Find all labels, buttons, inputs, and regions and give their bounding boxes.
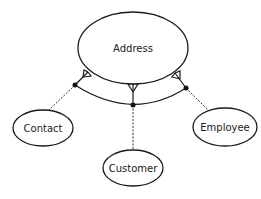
- contact-dashed-line: [48, 85, 75, 111]
- contact-address-line: [75, 72, 88, 85]
- entity-label: Address: [113, 43, 153, 54]
- entity-address[interactable]: Address: [78, 12, 188, 84]
- entity-label: Employee: [200, 122, 250, 133]
- entity-contact[interactable]: Contact: [13, 110, 73, 146]
- entity-label: Contact: [24, 123, 63, 134]
- junction-dot: [184, 86, 189, 91]
- junction-dot: [131, 103, 136, 108]
- er-diagram: Address Contact Customer Employee: [0, 0, 261, 199]
- entity-customer[interactable]: Customer: [103, 150, 163, 186]
- dashed-connectors: [48, 85, 208, 150]
- entity-label: Customer: [109, 163, 158, 174]
- junction-dot: [73, 83, 78, 88]
- employee-dashed-line: [186, 88, 208, 110]
- entity-employee[interactable]: Employee: [193, 108, 257, 146]
